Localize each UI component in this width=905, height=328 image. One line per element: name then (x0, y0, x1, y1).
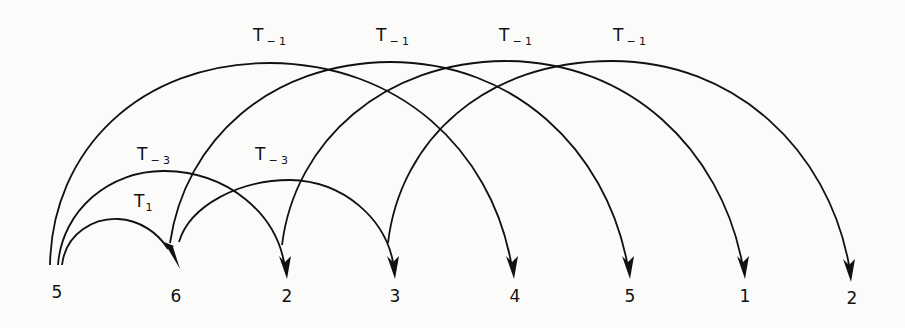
node-label: 3 (390, 286, 401, 306)
arc-diagram: T1 T− 3 T− 3 T− 1 T− 1 T− 1 T− 1 5 6 2 3… (0, 0, 905, 328)
diagram-canvas: T1 T− 3 T− 3 T− 1 T− 1 T− 1 T− 1 5 6 2 3… (0, 0, 905, 328)
node-label: 5 (52, 282, 63, 302)
arrowhead-icon (737, 256, 749, 279)
arc-label-t1: T1 (133, 191, 152, 214)
arc-label-t-1: T− 1 (375, 25, 409, 48)
arc-label-t-3: T− 3 (136, 144, 170, 167)
arc-label-t-1: T− 1 (498, 25, 532, 48)
arc-t-1-2-to-1 (282, 61, 742, 262)
arc-label-t-1: T− 1 (612, 25, 646, 48)
arrowhead-icon (506, 256, 518, 279)
node-label: 6 (171, 286, 182, 306)
arc-t-1-3-to-2 (388, 61, 849, 265)
arc-t1-5-to-6 (62, 219, 168, 265)
node-label: 4 (510, 286, 521, 306)
node-label: 5 (625, 286, 636, 306)
arrowhead-icon (622, 256, 634, 279)
node-label: 1 (740, 286, 751, 306)
arc-t-1-6-to-5 (170, 62, 627, 262)
node-label: 2 (847, 288, 858, 308)
node-label: 2 (282, 286, 293, 306)
arc-label-t-1: T− 1 (252, 25, 286, 48)
arrowhead-icon (279, 256, 291, 279)
arc-label-t-3: T− 3 (254, 144, 288, 167)
